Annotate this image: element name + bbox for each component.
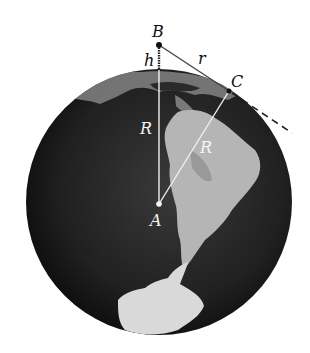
label-a: A <box>148 211 162 230</box>
label-h: h <box>144 51 154 70</box>
label-r-diagonal: R <box>199 138 212 157</box>
earth-horizon-diagram: B h r C R R A <box>0 0 310 353</box>
point-a <box>156 201 162 207</box>
label-c: C <box>231 72 243 91</box>
label-r-vertical: R <box>139 119 152 138</box>
label-b: B <box>151 22 164 41</box>
label-r: r <box>198 49 207 68</box>
point-b <box>156 42 162 48</box>
